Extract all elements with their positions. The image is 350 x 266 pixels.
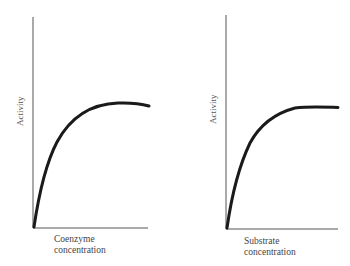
right-x-label-line1: Substrate: [244, 236, 296, 247]
charts-canvas: [0, 0, 350, 266]
left-y-axis-label: Activity: [15, 97, 25, 127]
left-curve: [34, 103, 149, 227]
right-x-axis-label: Substrate concentration: [244, 236, 296, 258]
right-curve: [227, 107, 338, 228]
left-x-label-line1: Coenzyme: [54, 234, 106, 245]
left-x-axis-label: Coenzyme concentration: [54, 234, 106, 256]
left-x-label-line2: concentration: [54, 245, 106, 256]
right-x-label-line2: concentration: [244, 247, 296, 258]
right-y-axis-label: Activity: [208, 95, 218, 125]
